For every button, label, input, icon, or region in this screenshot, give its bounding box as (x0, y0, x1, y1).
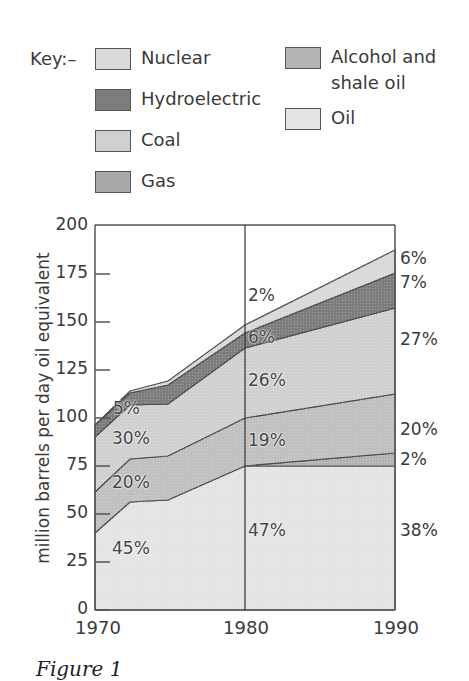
label-1990-hydro: 7% (400, 272, 427, 292)
label-1990-alcohol: 2% (400, 449, 427, 469)
label-1980-hydro: 6% (248, 327, 275, 347)
label-1990-gas: 20% (400, 419, 438, 439)
figure-caption: Figure 1 (36, 657, 122, 681)
label-1990-oil: 38% (400, 520, 438, 540)
label-1980-nuclear: 2% (248, 285, 275, 305)
label-1980-oil: 47% (248, 520, 286, 540)
x-tick-1970: 1970 (68, 617, 128, 638)
label-1990-nuclear: 6% (400, 248, 427, 268)
label-1980-gas: 19% (248, 430, 286, 450)
label-1970-coal: 30% (112, 428, 150, 448)
label-1990-coal: 27% (400, 329, 438, 349)
x-tick-1990: 1990 (366, 617, 426, 638)
x-tick-1980: 1980 (216, 617, 276, 638)
label-1970-oil: 45% (112, 538, 150, 558)
label-1980-coal: 26% (248, 370, 286, 390)
label-1970-hydro: 5% (113, 398, 140, 418)
label-1970-gas: 20% (112, 472, 150, 492)
